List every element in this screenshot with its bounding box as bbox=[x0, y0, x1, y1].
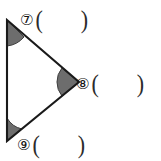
paren-open-9: ( bbox=[32, 132, 39, 157]
paren-close-9: ) bbox=[78, 132, 85, 157]
paren-close-7: ) bbox=[81, 7, 88, 32]
question-marker-9: ⑨ bbox=[17, 138, 30, 153]
answer-blank-7[interactable]: ( ) bbox=[35, 9, 88, 31]
question-marker-8: ⑧ bbox=[76, 77, 89, 92]
answer-blank-9[interactable]: ( ) bbox=[32, 134, 85, 156]
paren-open-7: ( bbox=[35, 7, 42, 32]
paren-open-8: ( bbox=[91, 71, 98, 96]
question-marker-7: ⑦ bbox=[20, 13, 33, 28]
answer-blank-8[interactable]: ( ) bbox=[91, 73, 144, 95]
paren-close-8: ) bbox=[137, 71, 144, 96]
answer-row-9: ⑨ ( ) bbox=[17, 134, 85, 156]
answer-row-8: ⑧ ( ) bbox=[76, 73, 144, 95]
answer-row-7: ⑦ ( ) bbox=[20, 9, 88, 31]
